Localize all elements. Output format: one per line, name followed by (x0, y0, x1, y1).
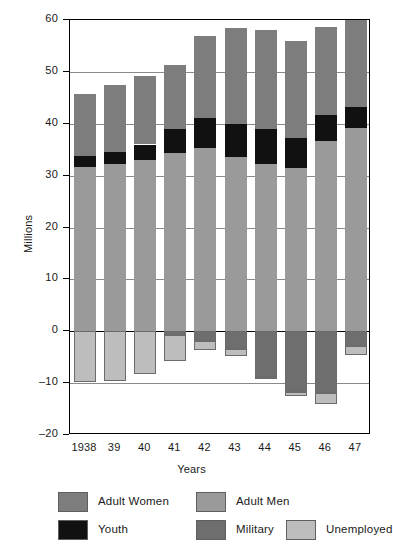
bar-group-43 (225, 20, 247, 433)
bar-segment-adult-men-46 (315, 141, 337, 331)
legend-swatch-youth (58, 520, 88, 540)
plot-area (69, 19, 370, 434)
legend-swatch-military (196, 520, 226, 540)
bar-segment-adult-men-42 (194, 148, 216, 332)
bar-segment-adult-women-42 (194, 36, 216, 118)
bar-segment-military-46 (315, 331, 337, 393)
legend-swatch-adult-women (58, 492, 88, 512)
y-tick-label: 0 (14, 324, 58, 335)
legend-swatch-unemployed (286, 520, 316, 540)
bar-segment-adult-men-1938 (74, 167, 96, 331)
bar-segment-youth-44 (255, 129, 277, 164)
legend-swatch-adult-men (196, 492, 226, 512)
y-tick-label: –10 (14, 376, 58, 387)
bar-segment-adult-women-45 (285, 41, 307, 138)
x-tick-label-1938: 1938 (69, 441, 99, 453)
bar-segment-adult-women-41 (164, 65, 186, 130)
bar-group-46 (315, 20, 337, 433)
bar-group-45 (285, 20, 307, 433)
y-tick-label: 20 (14, 221, 58, 232)
legend-label: Youth (98, 523, 128, 535)
bar-group-42 (194, 20, 216, 433)
legend-label: Unemployed (326, 523, 393, 535)
bar-segment-unemployed-39 (104, 331, 126, 380)
bar-segment-unemployed-45 (285, 392, 307, 396)
bar-segment-youth-47 (345, 107, 367, 128)
x-tick-label-44: 44 (250, 441, 280, 453)
x-tick-label-46: 46 (310, 441, 340, 453)
y-tick-label: –20 (14, 428, 58, 439)
y-tick-label: 10 (14, 272, 58, 283)
y-tick-label: 50 (14, 65, 58, 76)
x-tick-label-43: 43 (220, 441, 250, 453)
bar-segment-unemployed-44 (255, 377, 277, 380)
x-tick-label-41: 41 (159, 441, 189, 453)
bar-segment-unemployed-46 (315, 393, 337, 404)
bar-segment-adult-women-44 (255, 30, 277, 129)
y-tick-mark (63, 434, 69, 435)
bar-segment-military-47 (345, 331, 367, 346)
bar-segment-military-42 (194, 331, 216, 340)
bar-segment-youth-39 (104, 152, 126, 163)
bar-segment-adult-women-43 (225, 28, 247, 124)
bar-segment-unemployed-41 (164, 335, 186, 361)
y-tick-label: 30 (14, 169, 58, 180)
bar-segment-youth-43 (225, 124, 247, 157)
bar-segment-youth-41 (164, 129, 186, 153)
bar-segment-adult-men-41 (164, 153, 186, 331)
bar-segment-adult-men-43 (225, 157, 247, 331)
bar-segment-adult-women-39 (104, 85, 126, 152)
x-tick-label-40: 40 (129, 441, 159, 453)
bar-group-39 (104, 20, 126, 433)
x-tick-label-39: 39 (99, 441, 129, 453)
legend-label: Military (236, 523, 274, 535)
y-tick-label: 60 (14, 13, 58, 24)
bar-segment-adult-men-44 (255, 164, 277, 331)
bar-segment-military-44 (255, 331, 277, 377)
bar-segment-youth-42 (194, 118, 216, 148)
x-tick-label-47: 47 (340, 441, 370, 453)
bar-segment-adult-women-46 (315, 27, 337, 115)
bar-segment-adult-women-47 (345, 20, 367, 107)
bar-group-41 (164, 20, 186, 433)
bar-segment-youth-46 (315, 115, 337, 141)
bar-segment-military-45 (285, 331, 307, 392)
bar-segment-adult-men-47 (345, 128, 367, 331)
bar-segment-military-43 (225, 331, 247, 349)
bar-segment-unemployed-1938 (74, 331, 96, 382)
bar-segment-youth-1938 (74, 156, 96, 167)
chart-legend: Adult WomenAdult MenYouthMilitaryUnemplo… (0, 492, 383, 545)
bar-group-40 (134, 20, 156, 433)
bar-segment-unemployed-40 (134, 331, 156, 374)
bar-group-44 (255, 20, 277, 433)
bar-segment-adult-men-40 (134, 160, 156, 332)
bar-segment-adult-men-39 (104, 164, 126, 332)
bar-segment-unemployed-47 (345, 346, 367, 354)
bar-segment-unemployed-42 (194, 341, 216, 350)
y-tick-label: 40 (14, 117, 58, 128)
bar-segment-youth-40 (134, 145, 156, 160)
bar-segment-adult-men-45 (285, 168, 307, 331)
x-tick-label-45: 45 (280, 441, 310, 453)
bar-segment-youth-45 (285, 138, 307, 169)
legend-label: Adult Women (98, 495, 169, 507)
bar-segment-adult-women-40 (134, 76, 156, 144)
bar-group-47 (345, 20, 367, 433)
bar-segment-adult-women-1938 (74, 94, 96, 156)
x-axis-title: Years (0, 463, 383, 475)
bar-group-1938 (74, 20, 96, 433)
legend-label: Adult Men (236, 495, 290, 507)
bar-segment-unemployed-43 (225, 349, 247, 355)
x-tick-label-42: 42 (189, 441, 219, 453)
